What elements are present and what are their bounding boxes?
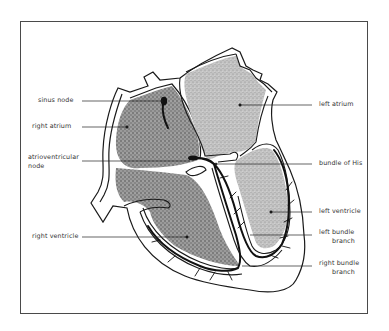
label-right-atrium: right atrium <box>32 122 71 130</box>
right-ventricle-region <box>115 168 240 266</box>
label-right-bundle-line2: branch <box>332 268 355 276</box>
label-av-node-line1: atrioventricular <box>28 153 79 161</box>
label-left-atrium: left atrium <box>319 100 354 108</box>
label-left-bundle-line1: left bundle <box>319 228 354 236</box>
label-sinus-node: sinus node <box>38 96 74 104</box>
label-right-ventricle: right ventricle <box>32 232 78 240</box>
label-bundle-of-his: bundle of His <box>319 159 362 167</box>
label-left-ventricle: left ventricle <box>319 207 361 215</box>
label-av-node-line2: node <box>28 162 44 170</box>
label-left-bundle-line2: branch <box>332 237 355 245</box>
label-right-bundle-line1: right bundle <box>319 259 359 267</box>
